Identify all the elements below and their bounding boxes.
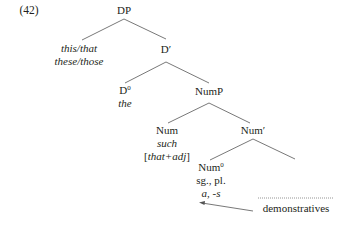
node-dp: DP [117, 4, 131, 17]
d0-word: the [118, 97, 131, 110]
num0-forms: a, -s [202, 187, 221, 200]
num0-features: sg., pl. [196, 174, 225, 187]
spec-dp-line2: these/those [55, 55, 104, 68]
node-num0: Num0 [198, 161, 224, 174]
annotation-demonstratives: demonstratives [263, 202, 330, 215]
num0-sup: 0 [220, 161, 224, 169]
spec-dp-line1: this/that [61, 42, 97, 55]
node-num-bar: Num′ [241, 124, 265, 137]
node-num-spec: Num [156, 124, 178, 137]
example-number: (42) [19, 4, 38, 17]
tree-branches [0, 0, 351, 230]
bracket-close: ] [186, 150, 190, 162]
bracket-content: that+adj [148, 150, 187, 162]
num0-label: Num [198, 161, 220, 173]
d0-sup: 0 [127, 84, 131, 92]
num-spec-bracket: [that+adj] [144, 150, 190, 163]
node-nump: NumP [195, 85, 223, 98]
arrowhead-icon [199, 201, 205, 205]
node-d-bar: D′ [161, 43, 171, 56]
num-spec-word: such [157, 137, 177, 150]
d0-label: D [119, 84, 127, 96]
node-d0: D0 [119, 84, 130, 97]
